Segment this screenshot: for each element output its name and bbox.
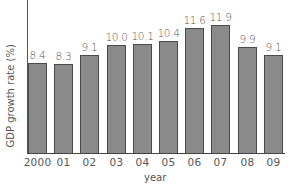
bar-value-label: 10.4 <box>154 27 184 39</box>
x-tick-label: 02 <box>75 156 105 168</box>
bar-07 <box>211 25 230 153</box>
bar-02 <box>80 55 99 153</box>
bar-08 <box>238 47 257 153</box>
bar-05 <box>159 41 178 153</box>
bar-03 <box>107 45 126 153</box>
x-tick-label: 09 <box>259 156 289 168</box>
x-axis-label: year <box>144 172 166 183</box>
bar-06 <box>185 28 204 153</box>
bar-value-label: 9.1 <box>75 41 105 53</box>
bar-value-label: 11.9 <box>206 11 236 23</box>
bar-chart: GDP growth rate (%) 8.420008.3019.10210.… <box>0 0 292 194</box>
bar-value-label: 9.1 <box>259 41 289 53</box>
bar-01 <box>54 64 73 153</box>
bar-04 <box>133 44 152 153</box>
bar-09 <box>264 55 283 153</box>
x-axis-line <box>27 153 285 154</box>
x-tick-label: 07 <box>206 156 236 168</box>
y-axis-label: GDP growth rate (%) <box>5 48 16 148</box>
bar-2000 <box>28 63 47 153</box>
